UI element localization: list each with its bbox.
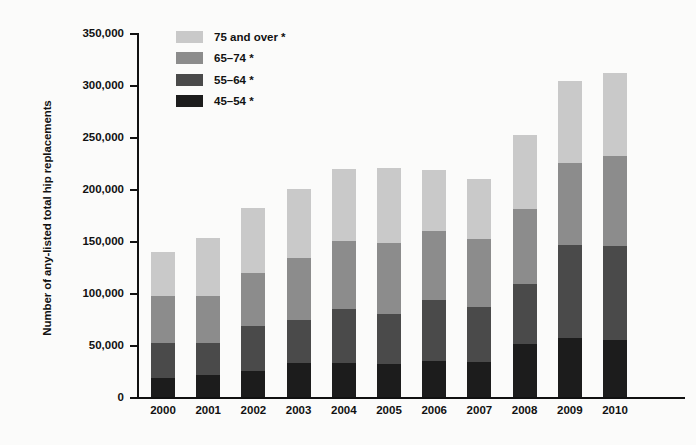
bar-segment xyxy=(558,338,582,397)
bar-segment xyxy=(513,209,537,284)
legend-swatch xyxy=(176,52,203,64)
y-axis-tick-label: 100,000 xyxy=(82,287,124,299)
y-axis-tick xyxy=(130,345,137,347)
bar-segment xyxy=(467,307,491,362)
bar-segment xyxy=(241,326,265,371)
bar-segment xyxy=(196,375,220,397)
bar-segment xyxy=(467,179,491,239)
bar-stack xyxy=(467,179,491,397)
bar-stack xyxy=(422,170,446,397)
x-axis-tick-label: 2006 xyxy=(421,404,447,416)
bar-segment xyxy=(603,340,627,397)
legend-label: 55–64 * xyxy=(214,74,254,86)
y-axis-tick xyxy=(130,397,137,399)
bar-segment xyxy=(422,170,446,230)
chart-figure: Number of any-listed total hip replaceme… xyxy=(0,0,696,445)
x-axis-tick-label: 2001 xyxy=(195,404,221,416)
legend-label: 65–74 * xyxy=(214,52,254,64)
legend-label: 45–54 * xyxy=(214,95,254,107)
x-axis-tick-label: 2002 xyxy=(241,404,267,416)
bar-segment xyxy=(603,73,627,156)
x-axis-tick-label: 2000 xyxy=(150,404,176,416)
bar-segment xyxy=(196,343,220,375)
bar-segment xyxy=(467,362,491,397)
bar-segment xyxy=(241,371,265,397)
bar-segment xyxy=(422,300,446,360)
x-axis-tick-label: 2008 xyxy=(512,404,538,416)
legend-item: 65–74 * xyxy=(176,48,346,70)
x-axis-tick-label: 2010 xyxy=(602,404,628,416)
bar-segment xyxy=(241,273,265,326)
y-axis-tick xyxy=(130,189,137,191)
bar-segment xyxy=(513,284,537,344)
bar-segment xyxy=(287,363,311,397)
legend-item: 75 and over * xyxy=(176,26,346,48)
bar-segment xyxy=(196,296,220,343)
x-axis-tick-label: 2005 xyxy=(376,404,402,416)
bar-segment xyxy=(196,238,220,296)
bar-stack xyxy=(513,135,537,397)
bar-segment xyxy=(513,135,537,209)
y-axis-tick xyxy=(130,85,137,87)
y-axis-tick-label: 250,000 xyxy=(82,131,124,143)
bar-segment xyxy=(332,363,356,397)
y-axis-tick-label: 0 xyxy=(118,391,124,403)
chart-legend: 75 and over *65–74 *55–64 *45–54 * xyxy=(176,26,346,112)
bar-stack xyxy=(196,238,220,397)
bar-segment xyxy=(603,156,627,246)
bar-segment xyxy=(558,163,582,245)
y-axis-tick-label: 200,000 xyxy=(82,183,124,195)
x-axis-tick-labels: 2000200120022003200420052006200720082009… xyxy=(137,404,685,424)
y-axis-tick-labels: 350,000300,000250,000200,000150,000100,0… xyxy=(36,33,130,397)
bar-segment xyxy=(377,168,401,243)
legend-swatch xyxy=(176,74,203,86)
bar-segment xyxy=(332,169,356,241)
y-axis-tick-label: 300,000 xyxy=(82,79,124,91)
bar-segment xyxy=(422,231,446,301)
bar-segment xyxy=(151,378,175,397)
y-axis-tick xyxy=(130,33,137,35)
bar-segment xyxy=(151,252,175,296)
bar-segment xyxy=(558,245,582,338)
y-axis-line xyxy=(137,33,139,397)
bar-segment xyxy=(287,320,311,363)
x-axis-tick-label: 2009 xyxy=(557,404,583,416)
y-axis-tick-label: 150,000 xyxy=(82,235,124,247)
y-axis-tick-label: 350,000 xyxy=(82,27,124,39)
bar-stack xyxy=(558,81,582,397)
bar-segment xyxy=(377,314,401,364)
legend-item: 45–54 * xyxy=(176,91,346,113)
bar-stack xyxy=(287,189,311,397)
bar-segment xyxy=(377,364,401,397)
bar-stack xyxy=(151,252,175,397)
bar-stack xyxy=(241,208,265,397)
bar-segment xyxy=(287,258,311,320)
bar-segment xyxy=(513,344,537,397)
bar-segment xyxy=(603,246,627,340)
x-axis-tick-label: 2004 xyxy=(331,404,357,416)
bar-segment xyxy=(422,361,446,397)
x-axis-tick-label: 2003 xyxy=(286,404,312,416)
x-axis-line xyxy=(137,397,685,399)
legend-label: 75 and over * xyxy=(214,31,286,43)
legend-swatch xyxy=(176,31,203,43)
bar-stack xyxy=(332,169,356,397)
y-axis-tick xyxy=(130,293,137,295)
y-axis-tick xyxy=(130,137,137,139)
bar-segment xyxy=(332,309,356,363)
bar-segment xyxy=(287,189,311,258)
legend-item: 55–64 * xyxy=(176,69,346,91)
y-axis-tick xyxy=(130,241,137,243)
bar-segment xyxy=(151,343,175,378)
bar-segment xyxy=(332,241,356,309)
legend-swatch xyxy=(176,95,203,107)
bar-segment xyxy=(558,81,582,163)
bar-segment xyxy=(467,239,491,307)
bar-segment xyxy=(377,243,401,314)
bar-stack xyxy=(377,168,401,397)
bar-segment xyxy=(151,296,175,343)
bar-segment xyxy=(241,208,265,274)
x-axis-tick-label: 2007 xyxy=(467,404,493,416)
bar-stack xyxy=(603,73,627,397)
y-axis-tick-label: 50,000 xyxy=(89,339,124,351)
